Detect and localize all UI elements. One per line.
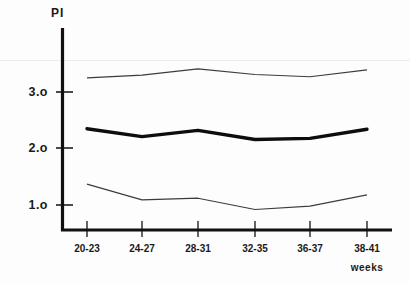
- x-tick-label-36-37: 36-37: [280, 243, 340, 254]
- series-line-upper: [87, 69, 367, 78]
- chart-figure: PI 3.o 2.o 1.o 20-23 24-27 28-31 32-35 3…: [0, 0, 410, 283]
- series-line-lower: [87, 184, 367, 209]
- x-tick-label-28-31: 28-31: [168, 243, 228, 254]
- y-tick-label-2: 2.o: [14, 141, 48, 155]
- y-tick-label-3: 3.o: [14, 85, 48, 99]
- series-line-median: [87, 129, 367, 140]
- x-tick-label-38-41: 38-41: [337, 243, 397, 254]
- x-tick-label-24-27: 24-27: [112, 243, 172, 254]
- line-chart-plot: [0, 0, 410, 283]
- x-tick-label-32-35: 32-35: [225, 243, 285, 254]
- x-axis-unit-label: weeks: [337, 262, 397, 273]
- y-tick-label-1: 1.o: [14, 198, 48, 212]
- x-tick-label-20-23: 20-23: [57, 243, 117, 254]
- y-axis-title: PI: [51, 6, 64, 20]
